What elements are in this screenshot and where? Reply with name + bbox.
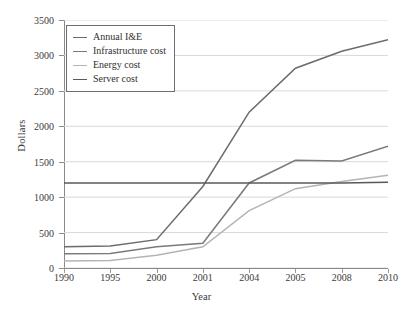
x-axis-tick-label: 2001 (181, 272, 225, 283)
y-axis-tick-label: 2500 (22, 85, 54, 96)
y-axis-tick-label: 1000 (22, 192, 54, 203)
y-axis-tick-label: 500 (22, 227, 54, 238)
x-axis-tick-label: 1990 (42, 272, 86, 283)
legend-swatch-icon (73, 37, 87, 38)
x-axis-tick-label: 2000 (135, 272, 179, 283)
x-axis-tick-label: 2008 (320, 272, 364, 283)
x-axis-line (64, 268, 388, 269)
legend-item-label: Energy cost (93, 58, 140, 72)
series-line (64, 182, 388, 183)
y-axis-tick-label: 3000 (22, 50, 54, 61)
series-line (64, 146, 388, 254)
legend-item-label: Infrastructure cost (93, 44, 166, 58)
legend-item[interactable]: Annual I&E (73, 30, 166, 44)
legend-item-label: Server cost (93, 72, 138, 86)
x-axis-tick-label: 2010 (366, 272, 403, 283)
x-axis-title: Year (0, 291, 403, 302)
x-axis-title-label: Year (192, 291, 211, 302)
legend-item[interactable]: Energy cost (73, 58, 166, 72)
legend-swatch-icon (73, 51, 87, 52)
legend-item[interactable]: Infrastructure cost (73, 44, 166, 58)
y-axis-tick-label: 1500 (22, 156, 54, 167)
series-line (64, 175, 388, 261)
legend-swatch-icon (73, 65, 87, 66)
x-axis-tick-label: 2005 (273, 272, 317, 283)
y-axis-tick-label: 2000 (22, 121, 54, 132)
x-axis-tick-label: 1995 (88, 272, 132, 283)
legend-swatch-icon (73, 79, 87, 80)
line-chart: Dollars 0500100015002000250030003500 199… (0, 0, 403, 314)
y-axis-tick-label: 3500 (22, 15, 54, 26)
chart-legend: Annual I&EInfrastructure costEnergy cost… (66, 25, 175, 92)
legend-item[interactable]: Server cost (73, 72, 166, 86)
legend-item-label: Annual I&E (93, 30, 142, 44)
x-axis-tick-label: 2004 (227, 272, 271, 283)
